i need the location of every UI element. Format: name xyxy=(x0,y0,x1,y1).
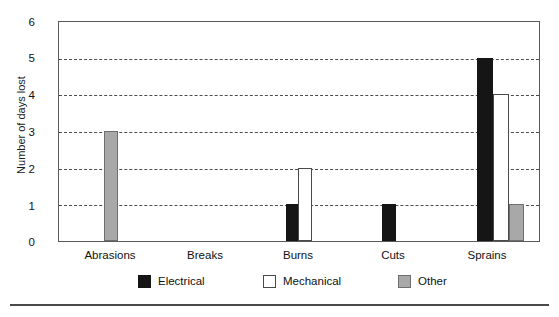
gridline-4 xyxy=(59,95,539,96)
bar-chart-figure: Number of days lost 6 5 4 3 2 1 0 Abrasi… xyxy=(0,0,559,317)
plot-area xyxy=(58,21,540,242)
legend-label-electrical: Electrical xyxy=(158,274,205,288)
gridline-5 xyxy=(59,59,539,60)
legend-label-mechanical: Mechanical xyxy=(283,274,341,288)
legend-swatch-other-icon xyxy=(398,275,411,288)
bar-burns-electrical xyxy=(286,204,298,241)
legend-item-other: Other xyxy=(398,272,447,290)
bar-sprains-electrical xyxy=(477,58,493,241)
legend-item-mechanical: Mechanical xyxy=(263,272,341,290)
bar-cuts-electrical xyxy=(382,204,396,241)
legend-item-electrical: Electrical xyxy=(138,272,205,290)
y-tick-label-0: 0 xyxy=(19,236,35,248)
x-tick-label-burns: Burns xyxy=(243,248,353,262)
y-tick-label-4: 4 xyxy=(19,89,35,101)
x-tick-label-sprains: Sprains xyxy=(432,248,542,262)
legend-label-other: Other xyxy=(418,274,447,288)
bar-sprains-other xyxy=(509,204,524,241)
gridline-3 xyxy=(59,132,539,133)
bar-abrasions-other xyxy=(104,131,118,241)
bar-burns-mechanical xyxy=(298,168,312,241)
y-tick-label-6: 6 xyxy=(19,16,35,28)
legend-swatch-mechanical-icon xyxy=(263,275,276,288)
bar-sprains-mechanical xyxy=(493,94,509,241)
x-tick-label-abrasions: Abrasions xyxy=(55,248,165,262)
bottom-divider xyxy=(10,304,549,306)
y-tick-label-3: 3 xyxy=(19,126,35,138)
legend-swatch-electrical-icon xyxy=(138,275,151,288)
y-tick-label-2: 2 xyxy=(19,163,35,175)
y-tick-label-5: 5 xyxy=(19,52,35,64)
chart-legend: Electrical Mechanical Other xyxy=(58,272,540,292)
y-tick-label-1: 1 xyxy=(19,200,35,212)
